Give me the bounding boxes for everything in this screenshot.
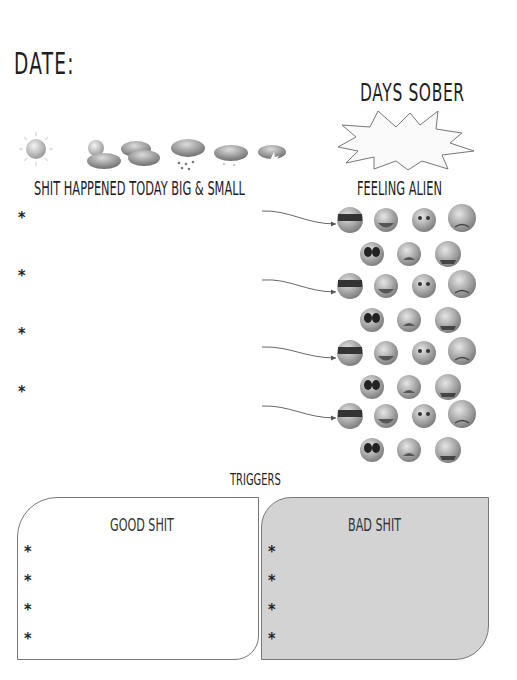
bullet-star[interactable]: * <box>18 384 26 400</box>
angry-alien-icon <box>435 241 461 267</box>
bullet-star[interactable]: * <box>18 268 26 284</box>
arrow-icon <box>260 272 340 302</box>
arrow-icon <box>260 400 340 430</box>
alien-faces-group[interactable] <box>334 333 484 403</box>
bad-item-bullet[interactable]: * <box>268 573 276 589</box>
partly-cloudy-icon <box>87 140 121 169</box>
good-item-bullet[interactable]: * <box>24 602 32 618</box>
storm-icon <box>258 145 286 166</box>
good-item-bullet[interactable]: * <box>24 544 32 560</box>
arrow-icon <box>260 340 340 370</box>
cloudy-icon <box>121 141 160 166</box>
worried-alien-icon <box>412 208 436 232</box>
days-sober-label: DAYS SOBER <box>360 78 465 107</box>
starburst-days-sober-field[interactable] <box>338 107 480 171</box>
good-shit-box[interactable]: GOOD SHIT * * * * <box>17 497 259 660</box>
good-item-bullet[interactable]: * <box>24 631 32 647</box>
alien-faces-group[interactable] <box>334 396 484 466</box>
bad-shit-title: BAD SHIT <box>348 514 401 535</box>
snow-icon <box>214 145 248 166</box>
arrow-icon <box>260 206 340 236</box>
upset-alien-icon <box>397 242 421 266</box>
bad-item-bullet[interactable]: * <box>268 631 276 647</box>
sad-alien-icon <box>448 204 476 232</box>
triggers-title: TRIGGERS <box>230 470 281 489</box>
good-shit-title: GOOD SHIT <box>110 514 174 535</box>
crying-dark-alien-icon <box>360 242 384 266</box>
laughing-alien-icon <box>374 208 398 232</box>
date-label: DATE: <box>14 46 75 81</box>
bad-shit-box[interactable]: BAD SHIT * * * * <box>261 497 489 660</box>
bullet-star[interactable]: * <box>18 326 26 342</box>
bullet-star[interactable]: * <box>18 210 26 226</box>
rain-icon <box>171 139 205 170</box>
shit-happened-title: SHIT HAPPENED TODAY BIG & SMALL <box>34 177 245 199</box>
bad-item-bullet[interactable]: * <box>268 602 276 618</box>
sun-icon <box>19 132 53 166</box>
good-item-bullet[interactable]: * <box>24 573 32 589</box>
alien-faces-group[interactable] <box>334 266 484 336</box>
weather-icons-row <box>16 130 286 180</box>
bad-item-bullet[interactable]: * <box>268 544 276 560</box>
cool-sunglasses-alien-icon <box>337 207 363 233</box>
alien-faces-group[interactable] <box>334 200 484 270</box>
feeling-alien-title: FEELING ALIEN <box>357 177 442 199</box>
